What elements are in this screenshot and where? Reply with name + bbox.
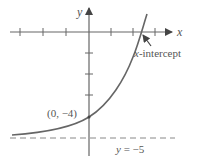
graph: x y (0, −4) x-intercept y = −5 — [0, 0, 198, 160]
x-axis-label: x — [176, 25, 183, 39]
y-axis-label: y — [76, 5, 83, 19]
asymptote-label: y = −5 — [115, 143, 145, 155]
x-intercept-arrow — [143, 35, 151, 46]
y-intercept-label: (0, −4) — [47, 107, 77, 120]
x-intercept-label: x-intercept — [133, 47, 181, 59]
y-intercept-point — [88, 116, 91, 119]
